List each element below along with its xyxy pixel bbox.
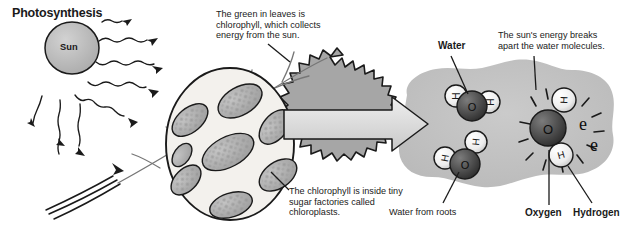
note-chlorophyll-collects: The green in leaves is chlorophyll, whic… (216, 9, 321, 41)
label-oxygen: Oxygen (525, 207, 562, 219)
note-sun-breaks-water: The sun's energy breaks apart the water … (498, 30, 605, 51)
svg-text:H: H (470, 138, 482, 146)
photosynthesis-diagram: H H O H H O (0, 0, 625, 231)
svg-text:H: H (451, 92, 462, 99)
stem-arrowhead (112, 163, 124, 175)
svg-text:O: O (543, 122, 553, 137)
svg-text:e: e (579, 114, 587, 134)
label-water-from-roots: Water from roots (389, 207, 456, 218)
sun-label: Sun (60, 42, 78, 53)
leader-chlorophyll-collects (268, 44, 290, 62)
label-water: Water (438, 40, 465, 52)
svg-text:O: O (468, 101, 477, 113)
label-hydrogen: Hydrogen (573, 207, 620, 219)
chloroplast-magnifier (165, 68, 302, 223)
svg-text:H: H (558, 96, 569, 104)
page-title: Photosynthesis (12, 6, 102, 21)
svg-text:e: e (590, 135, 598, 155)
svg-text:O: O (461, 159, 470, 171)
svg-text:H: H (484, 98, 495, 105)
note-chloroplasts: The chlorophyll is inside tiny sugar fac… (289, 186, 403, 218)
